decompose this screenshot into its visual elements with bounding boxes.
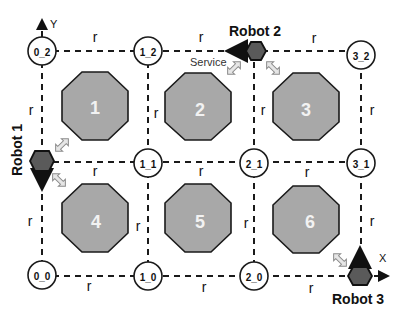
node-0_2: 0_2 bbox=[28, 37, 56, 65]
node-2_0: 2_0 bbox=[240, 262, 268, 290]
svg-text:3: 3 bbox=[301, 100, 311, 120]
svg-text:r: r bbox=[199, 163, 204, 179]
x-axis-label: X bbox=[379, 252, 387, 264]
svg-text:r: r bbox=[93, 163, 98, 179]
robot-2 bbox=[230, 42, 266, 60]
svg-text:5: 5 bbox=[195, 212, 205, 232]
node-1_2: 1_2 bbox=[134, 37, 162, 65]
svg-text:3_2: 3_2 bbox=[353, 51, 370, 62]
svg-text:2_1: 2_1 bbox=[246, 159, 263, 170]
svg-text:1_1: 1_1 bbox=[140, 159, 157, 170]
node-1_0: 1_0 bbox=[134, 262, 162, 290]
robot-3 bbox=[348, 251, 372, 285]
robot-2-label: Robot 2 bbox=[229, 23, 281, 39]
node-2_1: 2_1 bbox=[240, 149, 268, 177]
svg-text:1_0: 1_0 bbox=[140, 272, 157, 283]
svg-text:r: r bbox=[136, 218, 141, 234]
svg-text:r: r bbox=[93, 29, 98, 45]
node-3_1: 3_1 bbox=[347, 149, 375, 177]
svg-text:6: 6 bbox=[305, 212, 315, 232]
robot-3-label: Robot 3 bbox=[332, 291, 384, 307]
svg-text:r: r bbox=[244, 215, 249, 231]
obstacle-5: 5 bbox=[165, 184, 231, 252]
service-label: Service bbox=[190, 56, 227, 68]
node-3_2: 3_2 bbox=[347, 41, 375, 69]
svg-text:r: r bbox=[202, 279, 207, 295]
svg-text:r: r bbox=[261, 102, 266, 118]
obstacle-2: 2 bbox=[165, 73, 231, 140]
svg-text:r: r bbox=[154, 105, 159, 121]
robot-2-hexagon bbox=[246, 42, 266, 60]
robot-1-hexagon bbox=[30, 151, 54, 171]
node-1_1: 1_1 bbox=[134, 149, 162, 177]
svg-text:r: r bbox=[305, 164, 310, 180]
obstacle-6: 6 bbox=[273, 186, 339, 253]
svg-text:r: r bbox=[87, 278, 92, 294]
grid-diagram: Y X r r r r r r r r r r r r r r r r r 1 … bbox=[0, 0, 401, 316]
obstacle-1: 1 bbox=[62, 72, 128, 140]
obstacle-3: 3 bbox=[273, 73, 339, 140]
svg-text:1: 1 bbox=[90, 98, 100, 118]
svg-text:r: r bbox=[29, 102, 34, 118]
svg-text:0_2: 0_2 bbox=[34, 47, 51, 58]
robot-1 bbox=[30, 151, 54, 186]
svg-text:1_2: 1_2 bbox=[140, 47, 157, 58]
svg-text:r: r bbox=[28, 213, 33, 229]
svg-text:r: r bbox=[199, 29, 204, 45]
y-axis-label: Y bbox=[50, 18, 58, 30]
svg-text:r: r bbox=[309, 280, 314, 296]
svg-text:3_1: 3_1 bbox=[353, 159, 370, 170]
obstacle-4: 4 bbox=[62, 184, 128, 252]
svg-text:r: r bbox=[370, 213, 375, 229]
svg-text:4: 4 bbox=[91, 212, 101, 232]
svg-text:2_0: 2_0 bbox=[246, 272, 263, 283]
svg-text:r: r bbox=[312, 30, 317, 46]
robot-1-label: Robot 1 bbox=[9, 124, 25, 176]
svg-text:r: r bbox=[370, 102, 375, 118]
node-0_0: 0_0 bbox=[28, 261, 56, 289]
robot-3-hexagon bbox=[348, 267, 372, 285]
svg-text:2: 2 bbox=[195, 100, 205, 120]
svg-text:0_0: 0_0 bbox=[34, 271, 51, 282]
